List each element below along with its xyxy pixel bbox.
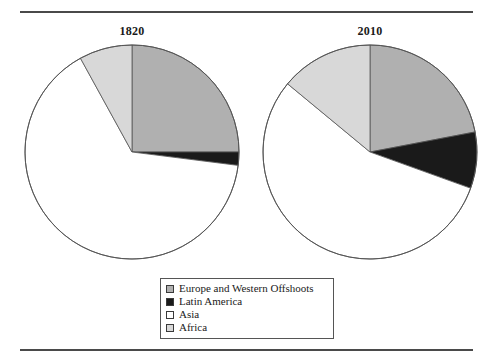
- legend-label-latin-america: Latin America: [179, 295, 242, 308]
- top-divider-rule: [20, 11, 473, 13]
- pie-title-2010: 2010: [310, 24, 430, 39]
- legend-item-latin-america: Latin America: [166, 295, 328, 308]
- pie-slices-1820: [25, 45, 239, 259]
- figure-panel: 1820 2010 Europe and Western Offshoots L…: [0, 0, 493, 359]
- bottom-divider-rule: [20, 349, 473, 351]
- legend-swatch-asia: [166, 311, 174, 319]
- pie-slice-europe-and-western-offshoots: [132, 45, 239, 152]
- legend-label-europe: Europe and Western Offshoots: [179, 282, 314, 295]
- pie-chart-1820: [24, 44, 240, 260]
- legend-item-europe: Europe and Western Offshoots: [166, 282, 328, 295]
- pie-svg-2010: [262, 44, 478, 260]
- legend-label-africa: Africa: [179, 321, 207, 334]
- legend-swatch-latin-america: [166, 298, 174, 306]
- pie-svg-1820: [24, 44, 240, 260]
- legend-item-africa: Africa: [166, 321, 328, 334]
- legend-label-asia: Asia: [179, 308, 199, 321]
- legend-swatch-africa: [166, 324, 174, 332]
- legend-swatch-europe: [166, 285, 174, 293]
- legend-item-asia: Asia: [166, 308, 328, 321]
- pie-chart-2010: [262, 44, 478, 260]
- chart-legend: Europe and Western Offshoots Latin Ameri…: [160, 278, 334, 339]
- pie-slices-2010: [263, 45, 477, 259]
- pie-title-1820: 1820: [72, 24, 192, 39]
